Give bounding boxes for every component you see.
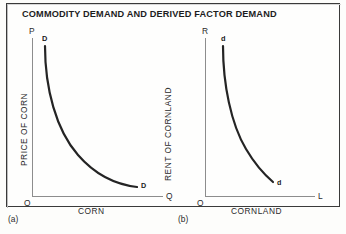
panel-caption-a: (a) [8,214,18,224]
demand-curve-a [6,26,176,204]
y-axis-title-b: RENT OF CORNLAND [163,87,173,181]
chart-panel-a: P Q O D D PRICE OF CORN CORN [6,26,176,204]
panel-caption-b: (b) [178,214,188,224]
curve-label-a-start: D [42,34,47,43]
x-axis-title-b: CORNLAND [231,206,282,216]
y-axis-title-a: PRICE OF CORN [19,93,29,166]
curve-label-b-start: d [221,34,226,43]
figure-root: COMMODITY DEMAND AND DERIVED FACTOR DEMA… [0,0,346,234]
curve-label-b-end: d [277,178,281,187]
demand-curve-b [176,26,340,204]
curve-label-a-end: D [141,181,146,190]
figure-title: COMMODITY DEMAND AND DERIVED FACTOR DEMA… [22,9,277,19]
x-axis-title-a: CORN [78,206,105,216]
chart-panel-b: R L O d d RENT OF CORNLAND CORNLAND [176,26,340,204]
